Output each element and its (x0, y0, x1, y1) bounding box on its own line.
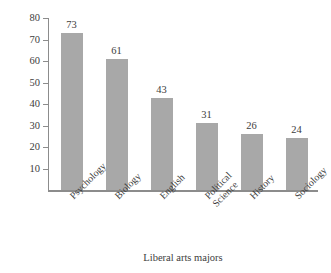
x-axis-title: Liberal arts majors (48, 252, 318, 263)
y-tick-label: 20 (18, 142, 40, 153)
y-tick-mark (43, 18, 48, 19)
y-tick-label: 40 (18, 99, 40, 110)
y-tick-label: 80 (18, 13, 40, 24)
bar (106, 59, 128, 190)
y-tick-mark (43, 40, 48, 41)
bar-value-label: 31 (187, 109, 227, 120)
y-tick-mark (43, 104, 48, 105)
bar-value-label: 73 (52, 19, 92, 30)
x-axis-line (48, 190, 318, 192)
bar-value-label: 24 (277, 124, 317, 135)
bar-value-label: 26 (232, 120, 272, 131)
bar-value-label: 61 (97, 45, 137, 56)
bar (61, 33, 83, 190)
y-tick-label: 60 (18, 56, 40, 67)
y-tick-mark (43, 61, 48, 62)
y-tick-mark (43, 126, 48, 127)
y-tick-label: 10 (18, 164, 40, 175)
y-tick-label: 30 (18, 121, 40, 132)
y-axis-line (48, 18, 49, 190)
bar-value-label: 43 (142, 84, 182, 95)
y-axis-tick-labels: 8070605040302010 (0, 0, 48, 172)
y-tick-mark (43, 83, 48, 84)
y-tick-label: 50 (18, 78, 40, 89)
y-tick-label: 70 (18, 35, 40, 46)
y-tick-mark (43, 169, 48, 170)
y-tick-mark (43, 147, 48, 148)
